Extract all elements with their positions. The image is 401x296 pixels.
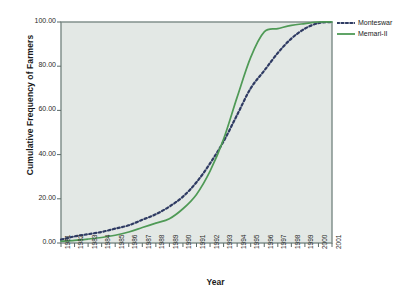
x-tick-label: 2001 <box>335 235 342 249</box>
x-tick-label: 1990 <box>185 235 192 249</box>
y-tick-label: 40.00 <box>10 150 56 157</box>
x-tick-label: 1992 <box>213 235 220 249</box>
x-tick-label: 1998 <box>294 235 301 249</box>
x-tick-label: 1983 <box>91 235 98 249</box>
x-axis-title: Year <box>177 277 225 287</box>
chart-legend: Monteswar Memari-II <box>337 17 392 39</box>
y-tick-label: 0.00 <box>10 238 56 245</box>
x-tick-label: 1984 <box>104 235 111 249</box>
x-axis-ticks <box>61 243 332 247</box>
x-tick-label: 1996 <box>267 235 274 249</box>
y-tick-label: 20.00 <box>10 194 56 201</box>
legend-label-memari-ii: Memari-II <box>358 28 388 39</box>
x-tick-label: 1991 <box>199 235 206 249</box>
x-axis-title-container: Year <box>0 277 401 287</box>
x-tick-label: 1985 <box>118 235 125 249</box>
x-tick-label: 1994 <box>240 235 247 249</box>
x-tick-label: 1982 <box>77 235 84 249</box>
x-tick-label: 2000 <box>321 235 328 249</box>
x-tick-label: 1997 <box>280 235 287 249</box>
legend-item-monteswar: Monteswar <box>337 17 392 28</box>
x-tick-label: 1989 <box>172 235 179 249</box>
x-tick-label: 1999 <box>307 235 314 249</box>
y-tick-label: 100.00 <box>10 17 56 24</box>
x-tick-label: 1986 <box>131 235 138 249</box>
legend-item-memari-ii: Memari-II <box>337 28 392 39</box>
x-tick-label: 1981 <box>64 235 71 249</box>
x-tick-label: 1988 <box>158 235 165 249</box>
plot-area <box>0 0 401 296</box>
legend-label-monteswar: Monteswar <box>358 17 392 28</box>
y-tick-label: 80.00 <box>10 61 56 68</box>
legend-swatch-memari-ii <box>337 30 355 38</box>
cumulative-frequency-chart: Cumulative Frequency of Farmers 0.0020.0… <box>0 0 401 296</box>
x-tick-label: 1993 <box>226 235 233 249</box>
y-tick-label: 60.00 <box>10 105 56 112</box>
plot-background <box>61 22 332 243</box>
x-tick-label: 1995 <box>253 235 260 249</box>
x-tick-label: 1987 <box>145 235 152 249</box>
legend-swatch-monteswar <box>337 19 355 27</box>
